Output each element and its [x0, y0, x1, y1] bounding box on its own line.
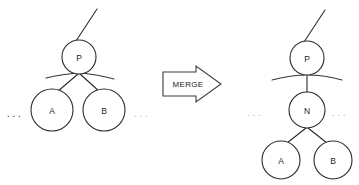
ellipsis-right-after: ...: [332, 106, 348, 118]
edge-n-to-b-after: [308, 128, 327, 143]
node-p-after: P: [290, 41, 324, 75]
node-label: B: [330, 156, 336, 166]
merge-arrow-label: MERGE: [173, 80, 204, 89]
node-label: P: [76, 53, 82, 63]
edge-parent-to-p-after: [304, 10, 325, 42]
node-label: B: [101, 106, 107, 116]
edge-n-to-a-after: [287, 128, 306, 143]
sibling-stub-right-after: [309, 75, 342, 80]
sibling-stub-left-after: [272, 75, 305, 80]
node-label: N: [304, 106, 310, 116]
node-label: P: [304, 54, 310, 64]
ellipsis-left-before: ...: [7, 107, 23, 119]
edge-p-to-b-before: [80, 74, 100, 92]
node-a-after: A: [262, 141, 300, 179]
figure-canvas: P A B ... ... MERGE: [0, 0, 359, 185]
edge-parent-to-p-before: [76, 9, 97, 41]
merge-arrow: MERGE: [163, 66, 221, 102]
before-subtree: P A B ... ...: [7, 9, 150, 131]
node-n-after: N: [289, 92, 325, 128]
edge-p-to-a-before: [57, 74, 78, 92]
merge-diagram-figure: P A B ... ... MERGE: [0, 0, 359, 185]
node-b-before: B: [83, 89, 125, 131]
ellipsis-left-after: ...: [247, 106, 263, 118]
node-label: A: [49, 106, 55, 116]
node-p-before: P: [62, 40, 96, 74]
sibling-stub-left-before: [46, 73, 78, 78]
node-a-before: A: [31, 89, 73, 131]
ellipsis-right-before: ...: [134, 107, 150, 119]
node-label: A: [278, 156, 284, 166]
node-b-after: B: [314, 141, 352, 179]
after-subtree: P N A B ... ...: [247, 10, 352, 179]
